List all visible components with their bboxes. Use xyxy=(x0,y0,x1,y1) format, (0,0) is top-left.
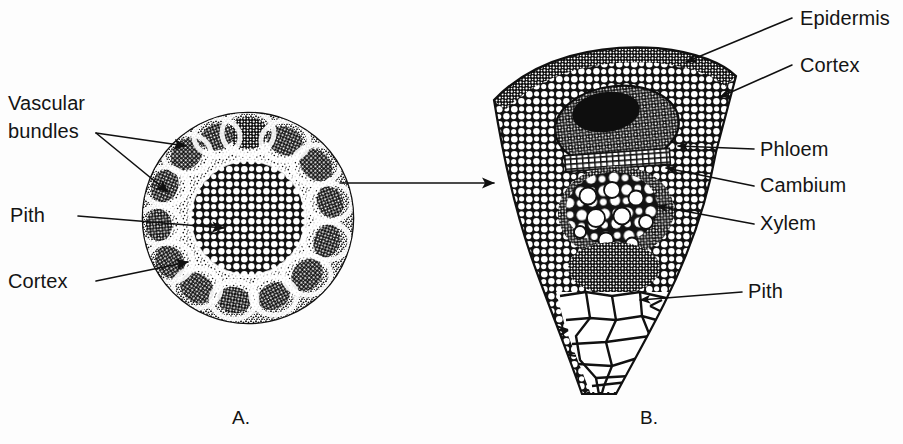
caption-panel-b: B. xyxy=(640,407,658,428)
inner-dark-band-b xyxy=(568,242,660,294)
label-xylem-b: Xylem xyxy=(760,212,816,234)
figure-canvas: Vascular bundles Pith Cortex A. xyxy=(0,0,903,444)
caption-panel-a: A. xyxy=(232,407,250,428)
label-phloem-b: Phloem xyxy=(760,138,828,160)
label-cortex-b: Cortex xyxy=(800,54,860,76)
label-pith-a: Pith xyxy=(10,204,45,226)
label-vascular-bundles-line2: bundles xyxy=(8,120,79,142)
label-cambium-b: Cambium xyxy=(760,174,846,196)
label-cortex-a: Cortex xyxy=(8,270,68,292)
label-epidermis-b: Epidermis xyxy=(800,7,890,29)
label-pith-b: Pith xyxy=(748,280,783,302)
stem-cross-section-figure: Vascular bundles Pith Cortex A. xyxy=(0,0,903,444)
label-vascular-bundles-line1: Vascular xyxy=(8,92,85,114)
